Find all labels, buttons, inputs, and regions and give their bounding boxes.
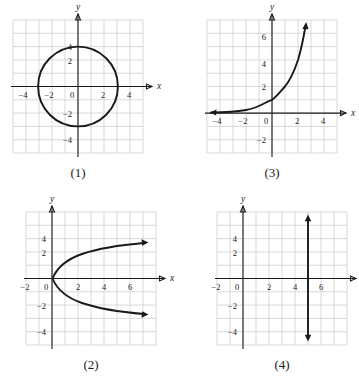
panel-3: −4 −2 0 2 4 6 4 2 −2 x y (3)	[207, 20, 337, 185]
y-axis-label: y	[75, 2, 81, 12]
svg-text:4: 4	[321, 116, 326, 126]
panel-2-caption: (2)	[26, 357, 156, 373]
svg-text:−2: −2	[238, 116, 247, 126]
svg-text:2: 2	[295, 116, 299, 126]
svg-text:6: 6	[319, 282, 323, 292]
svg-text:2: 2	[76, 282, 80, 292]
panel-4: −2 0 2 4 6 4 2 −2 −4 x y (4)	[217, 212, 347, 377]
svg-text:−2: −2	[211, 282, 220, 292]
tick-labels: −4 −2 0 2 4 4 2 −2 −4	[18, 42, 131, 145]
svg-text:2: 2	[42, 248, 46, 258]
svg-text:0: 0	[235, 282, 239, 292]
svg-text:0: 0	[264, 116, 268, 126]
x-axis-label: x	[169, 273, 175, 283]
svg-text:0: 0	[44, 282, 48, 292]
svg-text:2: 2	[68, 56, 72, 66]
svg-text:4: 4	[293, 282, 298, 292]
panel-2: −2 0 2 4 6 4 2 −2 −4 x y (2)	[26, 212, 156, 377]
y-axis-label: y	[269, 2, 275, 12]
svg-text:4: 4	[42, 234, 47, 244]
svg-text:2: 2	[267, 282, 271, 292]
panel-3-caption: (3)	[207, 165, 337, 181]
svg-text:−2: −2	[44, 90, 53, 100]
y-axis-label: y	[240, 194, 246, 204]
svg-text:4: 4	[102, 282, 107, 292]
svg-text:−4: −4	[37, 327, 47, 337]
axes	[205, 14, 346, 157]
svg-text:2: 2	[101, 90, 105, 100]
svg-text:−2: −2	[20, 282, 29, 292]
svg-text:2: 2	[233, 248, 237, 258]
tick-labels: −2 0 2 4 6 4 2 −2 −4	[211, 234, 323, 337]
svg-text:0: 0	[70, 90, 74, 100]
svg-text:−4: −4	[63, 135, 73, 145]
y-axis-label: y	[49, 194, 55, 204]
svg-text:−4: −4	[18, 90, 28, 100]
figure-sheet: −4 −2 0 2 4 4 2 −2 −4 x y (1)	[0, 0, 359, 382]
svg-text:6: 6	[128, 282, 132, 292]
svg-text:−2: −2	[37, 301, 46, 311]
svg-text:6: 6	[262, 32, 266, 42]
x-axis-label: x	[350, 108, 356, 118]
svg-text:4: 4	[233, 234, 238, 244]
x-axis-label: x	[156, 81, 162, 91]
svg-text:−2: −2	[63, 109, 72, 119]
panel-3-plot: −4 −2 0 2 4 6 4 2 −2 x y	[207, 20, 337, 153]
panel-4-caption: (4)	[217, 357, 347, 373]
svg-text:2: 2	[262, 82, 266, 92]
axes	[11, 14, 152, 157]
svg-text:−2: −2	[257, 135, 266, 145]
panel-1-caption: (1)	[13, 165, 143, 181]
svg-text:4: 4	[127, 90, 132, 100]
panel-1: −4 −2 0 2 4 4 2 −2 −4 x y (1)	[13, 20, 143, 185]
panel-2-plot: −2 0 2 4 6 4 2 −2 −4 x y	[26, 212, 156, 345]
tick-labels: −4 −2 0 2 4 6 4 2 −2	[212, 32, 325, 145]
svg-text:−4: −4	[212, 116, 222, 126]
svg-text:−2: −2	[228, 301, 237, 311]
svg-text:−4: −4	[228, 327, 238, 337]
panel-1-plot: −4 −2 0 2 4 4 2 −2 −4 x y	[13, 20, 143, 153]
tick-labels: −2 0 2 4 6 4 2 −2 −4	[20, 234, 132, 337]
panel-4-plot: −2 0 2 4 6 4 2 −2 −4 x y	[217, 212, 347, 345]
